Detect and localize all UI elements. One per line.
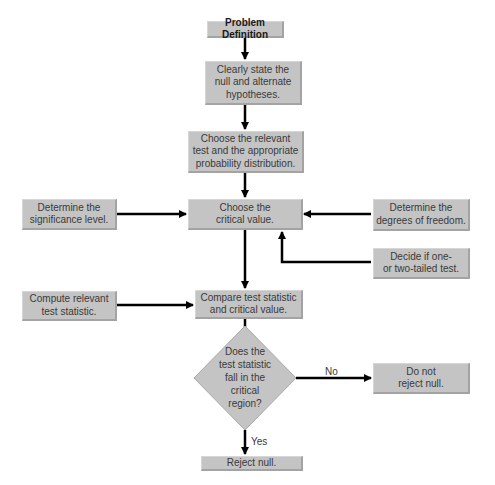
yes-label: Yes [251, 436, 267, 447]
tails-decision-box: Decide if one- or two-tailed test. [373, 248, 470, 279]
choose-critical-value-box: Choose the critical value. [188, 199, 303, 230]
compute-statistic-box: Compute relevant test statistic. [22, 291, 117, 321]
choose-test-box: Choose the relevant test and the appropr… [188, 131, 304, 173]
reject-null-box: Reject null. [201, 456, 303, 471]
decision-question: Does the test statistic fall in the crit… [205, 345, 285, 410]
do-not-reject-null-box: Do not reject null. [373, 363, 470, 394]
significance-level-box: Determine the significance level. [22, 199, 117, 230]
state-hypotheses-box: Clearly state the null and alternate hyp… [205, 61, 302, 105]
no-label: No [325, 366, 338, 377]
problem-definition-box: Problem Definition [207, 21, 284, 38]
degrees-of-freedom-box: Determine the degrees of freedom. [373, 199, 470, 231]
compare-box: Compare test statistic and critical valu… [195, 290, 303, 319]
